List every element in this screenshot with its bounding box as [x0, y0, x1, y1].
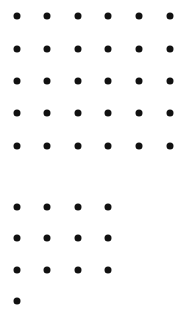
- dot: [44, 143, 51, 150]
- dot: [105, 110, 112, 117]
- dot: [14, 267, 21, 274]
- dot: [44, 110, 51, 117]
- dot: [167, 13, 174, 20]
- dot: [105, 204, 112, 211]
- dot: [75, 204, 82, 211]
- dot: [44, 78, 51, 85]
- dot: [75, 235, 82, 242]
- dot: [105, 143, 112, 150]
- dot: [75, 143, 82, 150]
- dot: [105, 78, 112, 85]
- dot: [75, 13, 82, 20]
- dot: [44, 235, 51, 242]
- dot: [14, 204, 21, 211]
- dot: [136, 13, 143, 20]
- dot: [44, 204, 51, 211]
- dot: [14, 298, 21, 305]
- dot: [136, 78, 143, 85]
- dot: [105, 235, 112, 242]
- dot: [105, 46, 112, 53]
- dot: [14, 235, 21, 242]
- dot: [75, 46, 82, 53]
- dot: [44, 267, 51, 274]
- dot: [136, 46, 143, 53]
- dot: [44, 13, 51, 20]
- dot: [14, 46, 21, 53]
- dot: [75, 78, 82, 85]
- dot: [167, 46, 174, 53]
- dot: [44, 46, 51, 53]
- dot: [14, 78, 21, 85]
- dot: [167, 110, 174, 117]
- dot: [14, 143, 21, 150]
- dot: [14, 13, 21, 20]
- dot: [105, 267, 112, 274]
- dot: [75, 267, 82, 274]
- dot: [136, 110, 143, 117]
- dot: [167, 78, 174, 85]
- dot: [105, 13, 112, 20]
- dot: [167, 143, 174, 150]
- dot: [14, 110, 21, 117]
- dot: [75, 110, 82, 117]
- dot: [136, 143, 143, 150]
